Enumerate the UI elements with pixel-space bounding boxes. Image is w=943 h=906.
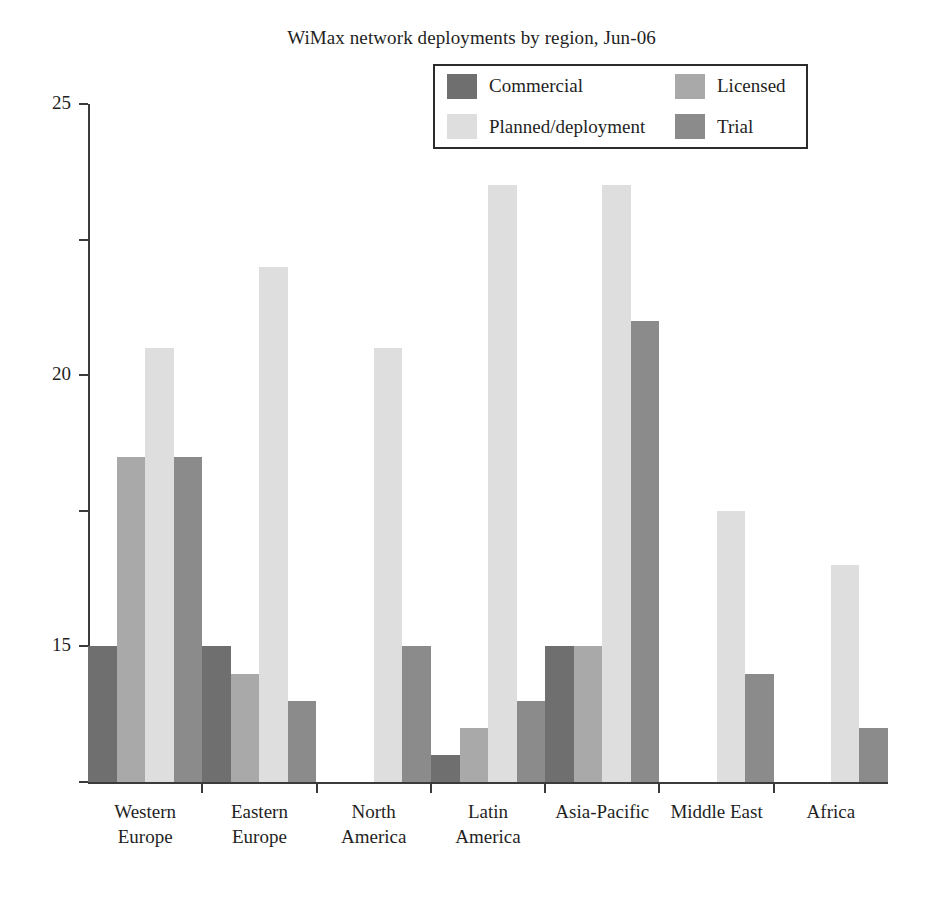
bar-group xyxy=(431,104,545,782)
bar xyxy=(517,701,546,782)
bar xyxy=(88,646,117,782)
legend-item-licensed: Licensed xyxy=(675,74,822,99)
x-axis-line xyxy=(88,782,888,784)
bar xyxy=(117,457,146,782)
category-label-line: Latin xyxy=(455,799,520,824)
y-axis-tick: 5 xyxy=(79,645,88,647)
x-axis-tick xyxy=(658,782,660,793)
y-axis-tick: 15 xyxy=(79,374,88,376)
bar xyxy=(402,646,431,782)
bar-group xyxy=(202,104,316,782)
legend-item-commercial: Commercial xyxy=(447,74,675,99)
x-axis-tick xyxy=(544,782,546,793)
bar-group xyxy=(317,104,431,782)
category-label-line: America xyxy=(455,824,520,849)
bar-group xyxy=(545,104,659,782)
x-axis-tick xyxy=(316,782,318,793)
x-axis-category-label: LatinAmerica xyxy=(455,799,520,849)
category-label-line: Eastern xyxy=(231,799,288,824)
bar-group xyxy=(774,104,888,782)
bar xyxy=(545,646,574,782)
x-axis-tick xyxy=(430,782,432,793)
y-axis-tick-label: 20 xyxy=(52,363,71,385)
plot-area: 0510152025 xyxy=(88,104,888,782)
category-label-line: America xyxy=(341,824,406,849)
category-label-line: Middle East xyxy=(670,799,762,824)
x-axis-category-label: Africa xyxy=(807,799,856,824)
chart-figure: WiMax network deployments by region, Jun… xyxy=(0,0,943,906)
bar xyxy=(174,457,203,782)
bar xyxy=(574,646,603,782)
bar xyxy=(631,321,660,782)
legend-label-commercial: Commercial xyxy=(489,75,583,97)
bar xyxy=(259,267,288,782)
bar xyxy=(745,674,774,782)
bar xyxy=(288,701,317,782)
bar xyxy=(431,755,460,782)
legend-swatch-licensed xyxy=(675,74,705,99)
x-axis-tick xyxy=(773,782,775,793)
y-axis-tick-label: 25 xyxy=(52,92,71,114)
x-axis-category-label: Asia-Pacific xyxy=(555,799,649,824)
category-label-line: North xyxy=(341,799,406,824)
y-axis-tick: 10 xyxy=(79,510,88,512)
x-axis-category-label: NorthAmerica xyxy=(341,799,406,849)
bar-group xyxy=(88,104,202,782)
bar xyxy=(460,728,489,782)
category-label-line: Africa xyxy=(807,799,856,824)
legend-label-licensed: Licensed xyxy=(717,75,786,97)
bar xyxy=(831,565,860,782)
bar xyxy=(602,185,631,782)
x-axis-category-label: WesternEurope xyxy=(114,799,176,849)
bar xyxy=(145,348,174,782)
bar xyxy=(717,511,746,782)
y-axis-tick: 20 xyxy=(79,239,88,241)
bar xyxy=(202,646,231,782)
category-label-line: Europe xyxy=(231,824,288,849)
category-label-line: Western xyxy=(114,799,176,824)
bar-group xyxy=(660,104,774,782)
x-axis-tick xyxy=(201,782,203,793)
bar xyxy=(231,674,260,782)
x-axis-category-label: Middle East xyxy=(670,799,762,824)
legend-swatch-commercial xyxy=(447,74,477,99)
category-label-line: Europe xyxy=(114,824,176,849)
bar xyxy=(488,185,517,782)
chart-title: WiMax network deployments by region, Jun… xyxy=(0,27,943,49)
y-axis-tick: 25 xyxy=(79,103,88,105)
bar xyxy=(859,728,888,782)
y-axis-tick: 0 xyxy=(79,781,88,783)
y-axis-tick-label: 15 xyxy=(52,634,71,656)
x-axis-category-label: EasternEurope xyxy=(231,799,288,849)
bar xyxy=(374,348,403,782)
category-label-line: Asia-Pacific xyxy=(555,799,649,824)
